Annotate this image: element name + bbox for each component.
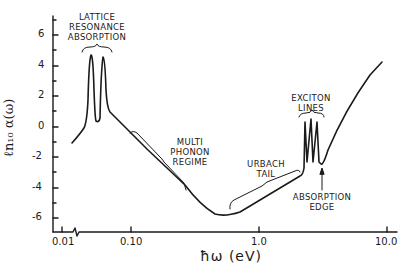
y-tick-label: 2 [38,89,44,100]
annotation-line: TAIL [243,169,289,179]
annotation-line: URBACH [243,159,289,169]
annotation-line: LATTICE [67,12,127,22]
x-axis [53,228,397,236]
annotation-line: EDGE [290,202,354,212]
y-tick-label: -2 [32,150,42,161]
annotation-lattice: LATTICE RESONANCE ABSORPTION [67,12,127,42]
annotation-line: LINES [286,103,336,113]
edge-arrowhead [320,168,324,174]
y-tick-label: 4 [38,59,44,70]
annotation-line: RESONANCE [67,22,127,32]
y-tick-label: -6 [32,211,42,222]
annotation-urbach: URBACH TAIL [243,159,289,179]
y-tick-label: 0 [38,120,44,131]
x-tick-label: 1.0 [251,236,267,247]
annotation-edge: ABSORPTION EDGE [290,192,354,212]
x-ticks [62,227,387,232]
y-ticks [53,20,58,218]
annotation-line: ABSORPTION [67,32,127,42]
x-tick-label: 10.0 [375,236,397,247]
annotation-line: MULTI [165,137,215,147]
annotation-line: EXCITON [286,93,336,103]
y-axis-title: ℓn₁₀ α(ω) [1,99,17,158]
annotation-line: PHONON [165,147,215,157]
x-tick-label: 0.10 [120,236,142,247]
annotation-line: ABSORPTION [290,192,354,202]
lattice-brace [82,44,112,52]
annotation-line: REGIME [165,157,215,167]
annotation-multiphonon: MULTI PHONON REGIME [165,137,215,167]
x-tick-label: 0.01 [52,236,74,247]
y-tick-label: 6 [38,28,44,39]
annotation-exciton: EXCITON LINES [286,93,336,113]
y-tick-label: -4 [32,181,42,192]
x-axis-title: ħω (eV) [200,248,262,264]
